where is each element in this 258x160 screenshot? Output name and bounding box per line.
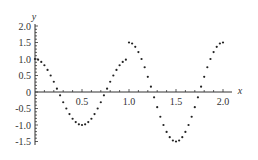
data-point <box>219 42 221 44</box>
data-point <box>72 118 74 120</box>
data-point <box>122 61 124 63</box>
data-point <box>216 46 218 48</box>
data-point <box>59 94 61 96</box>
data-point <box>159 116 161 118</box>
y-tick-label: 1.0 <box>19 54 32 65</box>
data-point <box>115 69 117 71</box>
data-point <box>62 101 64 103</box>
data-point <box>128 41 130 43</box>
data-point <box>140 58 142 60</box>
data-point <box>169 136 171 138</box>
x-tick-label: 1.5 <box>170 96 183 107</box>
data-point <box>206 66 208 68</box>
y-axis-label: y <box>31 11 37 22</box>
data-point <box>125 59 127 61</box>
data-point <box>153 96 155 98</box>
data-point <box>50 74 52 76</box>
data-point <box>166 131 168 133</box>
data-point <box>200 86 202 88</box>
data-point <box>81 124 83 126</box>
data-point <box>194 106 196 108</box>
y-tick-label: -1.0 <box>15 120 31 131</box>
y-tick-label: -1.5 <box>15 136 31 147</box>
data-point <box>197 96 199 98</box>
y-tick-label: 0.5 <box>19 70 32 81</box>
data-point <box>90 118 92 120</box>
data-point <box>40 61 42 63</box>
data-point <box>213 51 215 53</box>
data-point <box>103 94 105 96</box>
data-point <box>56 88 58 90</box>
data-point <box>119 64 121 66</box>
y-axis: y -1.5-1.0-0.500.51.01.52.0 <box>15 11 38 147</box>
data-point <box>137 51 139 53</box>
plot: y -1.5-1.0-0.500.51.01.52.0 x 0.51.01.52… <box>0 0 258 160</box>
data-point <box>203 76 205 78</box>
data-point <box>46 69 48 71</box>
data-point <box>134 46 136 48</box>
data-point <box>147 76 149 78</box>
data-point <box>84 123 86 125</box>
data-point <box>181 136 183 138</box>
data-point <box>43 64 45 66</box>
y-tick-label: -0.5 <box>15 103 31 114</box>
x-axis: x 0.51.01.52.0 <box>35 85 243 107</box>
data-point <box>93 113 95 115</box>
data-point <box>100 101 102 103</box>
y-tick-label: 2.0 <box>19 21 32 32</box>
data-point <box>68 113 70 115</box>
data-point <box>187 124 189 126</box>
data-point <box>97 107 99 109</box>
data-point <box>172 139 174 141</box>
data-point <box>144 66 146 68</box>
x-tick-label: 1.0 <box>123 96 136 107</box>
y-tick-label: 1.5 <box>19 37 32 48</box>
data-point <box>34 58 36 60</box>
y-tick-label: 0 <box>26 87 31 98</box>
data-point <box>106 88 108 90</box>
data-point <box>112 74 114 76</box>
data-point <box>184 131 186 133</box>
data-point <box>109 81 111 83</box>
data-point <box>191 116 193 118</box>
data-point <box>150 86 152 88</box>
data-point <box>178 139 180 141</box>
data-point <box>209 58 211 60</box>
data-point <box>131 42 133 44</box>
data-point <box>78 123 80 125</box>
data-point <box>75 121 77 123</box>
data-point <box>37 59 39 61</box>
data-point <box>175 140 177 142</box>
x-tick-label: 0.5 <box>76 96 89 107</box>
x-axis-label: x <box>237 85 243 96</box>
data-point <box>65 107 67 109</box>
data-point <box>87 121 89 123</box>
data-point <box>53 81 55 83</box>
x-tick-label: 2.0 <box>217 96 230 107</box>
data-point <box>156 106 158 108</box>
data-point <box>162 124 164 126</box>
data-point <box>222 41 224 43</box>
